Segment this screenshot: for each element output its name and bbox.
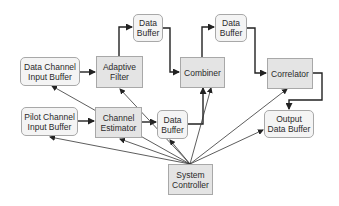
node-label: Filter [103, 72, 136, 82]
node-label: Combiner [184, 68, 221, 78]
node-label: Estimator [101, 123, 137, 133]
node-label: Controller [172, 180, 209, 190]
ctrl-to-odb [190, 130, 263, 164]
correlator-node: Correlator [267, 58, 313, 89]
node-label: Data [220, 18, 243, 28]
edge-dbm-to-combiner [188, 88, 203, 124]
node-label: Input Buffer [24, 72, 76, 82]
edge-af-to-dbtl [119, 27, 132, 56]
block-diagram: Data ChannelInput Buffer AdaptiveFilter … [0, 0, 339, 206]
node-label: Data [161, 115, 184, 125]
node-label: Buffer [220, 28, 243, 38]
ctrl-to-combiner [190, 88, 211, 164]
data-buffer-middle-node: DataBuffer [157, 110, 188, 139]
data-buffer-top-left-node: DataBuffer [133, 14, 163, 42]
edge-dbtl-to-combiner [163, 28, 179, 72]
node-label: Pilot Channel [24, 112, 75, 122]
data-channel-input-buffer-node: Data ChannelInput Buffer [20, 57, 80, 86]
node-label: System [172, 170, 209, 180]
data-buffer-top-right-node: DataBuffer [215, 14, 247, 42]
combiner-node: Combiner [180, 57, 225, 88]
node-label: Input Buffer [24, 122, 75, 132]
system-controller-node: SystemController [168, 164, 213, 195]
node-label: Buffer [137, 28, 160, 38]
edge-dbtr-to-correlator [247, 28, 266, 73]
node-label: Data Buffer [268, 124, 311, 134]
channel-estimator-node: ChannelEstimator [95, 107, 142, 138]
node-label: Buffer [161, 125, 184, 135]
node-label: Correlator [271, 69, 309, 79]
node-label: Channel [101, 113, 137, 123]
adaptive-filter-node: AdaptiveFilter [96, 56, 143, 88]
node-label: Adaptive [103, 62, 136, 72]
edge-combiner-to-dbtr [202, 27, 214, 57]
node-label: Output [268, 114, 311, 124]
pilot-channel-input-buffer-node: Pilot ChannelInput Buffer [21, 107, 78, 136]
output-data-buffer-node: OutputData Buffer [264, 110, 314, 138]
node-label: Data Channel [24, 62, 76, 72]
node-label: Data [137, 18, 160, 28]
